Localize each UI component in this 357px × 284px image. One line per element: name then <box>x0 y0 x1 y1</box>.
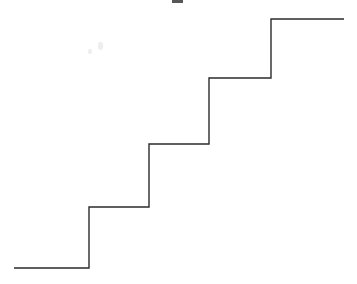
chart-background <box>0 0 357 284</box>
scan-speck-b <box>98 42 103 50</box>
scan-speck-a <box>88 49 92 54</box>
cropped-ink-mark <box>172 0 183 3</box>
step-function-chart <box>0 0 357 284</box>
figure-canvas <box>0 0 357 284</box>
